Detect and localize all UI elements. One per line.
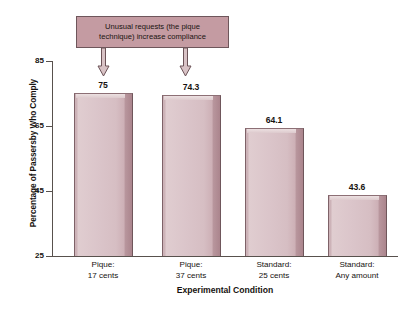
- bar-value-label-2: 74.3: [161, 82, 221, 92]
- y-tick-label-65: 65: [14, 121, 44, 130]
- x-category-line-4a: Standard:: [314, 260, 400, 271]
- y-tick-label-85: 85: [14, 56, 44, 65]
- annotation-arrow-down-icon-1: [97, 48, 110, 78]
- y-tick-mark-25: [46, 256, 52, 257]
- x-category-label-4: Standard: Any amount: [314, 260, 400, 281]
- bar-value-label-1: 75: [73, 80, 133, 90]
- bar-pique-37-cents[interactable]: [162, 95, 221, 256]
- bar-standard-any-amount[interactable]: [328, 195, 387, 256]
- x-category-line-3b: 25 cents: [231, 271, 317, 282]
- bar-standard-25-cents[interactable]: [245, 128, 304, 256]
- x-category-line-1a: Pique:: [60, 260, 146, 271]
- y-tick-label-25: 25: [14, 251, 44, 260]
- x-category-line-1b: 17 cents: [60, 271, 146, 282]
- annotation-line-1: Unusual requests (the pique: [99, 22, 206, 32]
- bar-value-label-3: 64.1: [244, 115, 304, 125]
- bar-value-label-4: 43.6: [327, 182, 387, 192]
- y-tick-mark-65: [46, 126, 52, 127]
- x-category-label-3: Standard: 25 cents: [231, 260, 317, 281]
- x-category-label-2: Pique: 37 cents: [148, 260, 234, 281]
- bar-pique-17-cents[interactable]: [74, 93, 133, 256]
- x-axis-title: Experimental Condition: [52, 285, 398, 295]
- y-tick-mark-45: [46, 191, 52, 192]
- x-category-line-2a: Pique:: [148, 260, 234, 271]
- x-category-line-2b: 37 cents: [148, 271, 234, 282]
- y-axis-title: Percentage of Passersby Who Comply: [28, 53, 38, 253]
- x-category-line-3a: Standard:: [231, 260, 317, 271]
- x-axis-line: [52, 256, 398, 257]
- annotation-callout-text: Unusual requests (the pique technique) i…: [95, 22, 210, 42]
- y-tick-mark-85: [46, 61, 52, 62]
- annotation-arrow-down-icon-2: [179, 48, 192, 78]
- bar-chart-figure: Percentage of Passersby Who Comply 85 65…: [0, 0, 404, 311]
- x-category-label-1: Pique: 17 cents: [60, 260, 146, 281]
- x-category-line-4b: Any amount: [314, 271, 400, 282]
- y-tick-label-45: 45: [14, 186, 44, 195]
- annotation-line-2: technique) increase compliance: [99, 32, 206, 42]
- y-axis-line: [52, 61, 53, 257]
- annotation-callout-box: Unusual requests (the pique technique) i…: [76, 16, 229, 48]
